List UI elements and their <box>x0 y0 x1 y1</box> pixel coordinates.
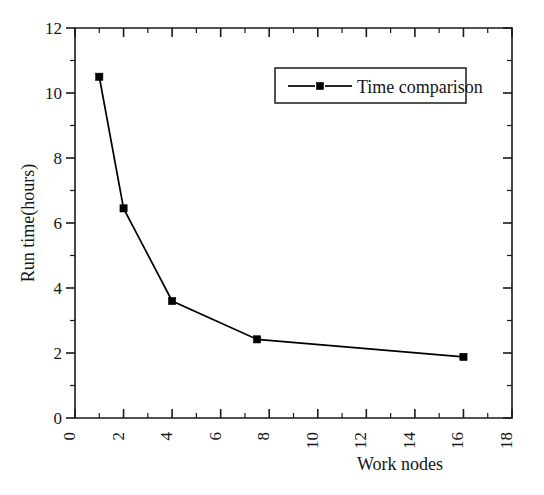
x-tick-label: 2 <box>109 432 128 441</box>
data-point-marker <box>96 73 103 80</box>
x-tick-label: 12 <box>351 432 370 449</box>
data-point-marker <box>169 297 176 304</box>
y-tick-label: 6 <box>54 214 63 233</box>
x-axis-title: Work nodes <box>357 454 443 474</box>
x-tick-label: 16 <box>448 432 467 449</box>
x-tick-label: 6 <box>206 432 225 441</box>
legend-marker-icon <box>317 83 324 90</box>
x-axis-ticks-bottom <box>75 409 512 418</box>
x-tick-label: 4 <box>157 432 176 441</box>
x-axis-ticks-top <box>75 28 512 37</box>
legend: Time comparison <box>275 68 483 103</box>
series-polyline <box>99 77 463 357</box>
y-axis-ticks-right <box>503 28 512 418</box>
data-point-marker <box>120 205 127 212</box>
y-tick-label: 2 <box>54 344 63 363</box>
y-axis-title: Run time(hours) <box>18 164 39 283</box>
line-chart: 024681012141618 024681012 Time compariso… <box>0 0 544 495</box>
x-tick-label: 8 <box>254 432 273 441</box>
x-tick-label: 0 <box>60 432 79 441</box>
chart-canvas: 024681012141618 024681012 Time compariso… <box>0 0 544 495</box>
x-axis-tick-labels: 024681012141618 <box>60 432 516 450</box>
y-tick-label: 0 <box>54 409 63 428</box>
y-tick-label: 4 <box>54 279 63 298</box>
y-axis-ticks-left <box>66 28 75 418</box>
y-tick-label: 12 <box>45 19 62 38</box>
data-point-marker <box>253 336 260 343</box>
data-series-time-comparison <box>96 73 467 360</box>
y-tick-label: 10 <box>45 84 62 103</box>
legend-label-time-comparison: Time comparison <box>357 77 483 97</box>
x-tick-label: 14 <box>400 432 419 450</box>
y-tick-label: 8 <box>54 149 63 168</box>
x-tick-label: 18 <box>497 432 516 449</box>
x-tick-label: 10 <box>303 432 322 449</box>
y-axis-tick-labels: 024681012 <box>45 19 63 428</box>
data-point-marker <box>460 353 467 360</box>
